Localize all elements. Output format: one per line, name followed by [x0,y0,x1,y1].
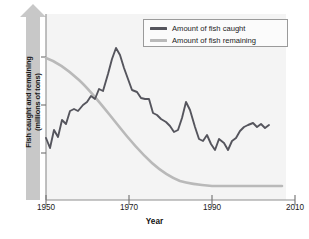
fish-stocks-line-chart: Fish caught and remaining (millions of t… [0,0,309,239]
legend-swatch-fish-remaining [150,39,167,42]
x-tick-label-2010: 2010 [286,203,304,212]
series-line-fish-caught [46,48,269,150]
x-tick-label-1950: 1950 [37,203,55,212]
legend-label-fish-caught: Amount of fish caught [172,24,245,33]
legend-item-fish-remaining: Amount of fish remaining [150,35,282,46]
series-line-fish-remaining [46,58,282,186]
legend-item-fish-caught: Amount of fish caught [150,23,282,34]
x-tick-label-1990: 1990 [203,203,221,212]
chart-legend: Amount of fish caught Amount of fish rem… [143,19,288,47]
x-axis-title: Year [0,217,309,226]
legend-swatch-fish-caught [150,27,167,30]
x-tick-label-1970: 1970 [120,203,138,212]
legend-label-fish-remaining: Amount of fish remaining [172,36,256,45]
